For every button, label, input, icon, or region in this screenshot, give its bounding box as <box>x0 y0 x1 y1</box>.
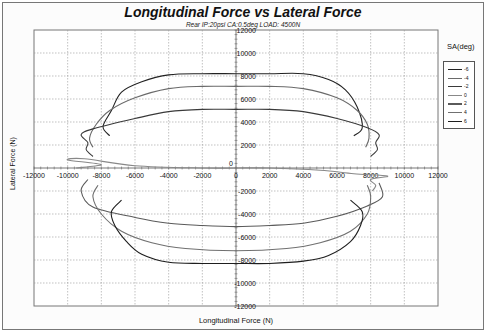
legend-swatch <box>448 69 462 70</box>
x-tick-label: -10000 <box>57 172 79 179</box>
legend-label: -6 <box>464 66 468 72</box>
legend-swatch <box>448 121 462 122</box>
legend-item: 2 <box>448 100 472 108</box>
x-tick-label: 0 <box>234 172 238 179</box>
x-tick-label: 2000 <box>262 172 278 179</box>
legend-swatch <box>448 86 462 87</box>
x-axis-label: Longitudinal Force (N) <box>186 316 286 325</box>
y-tick-label: 0 <box>229 160 233 167</box>
legend-swatch <box>448 95 462 96</box>
x-tick-label: -4000 <box>160 172 178 179</box>
plot-area: -12000-10000-8000-6000-4000-200002000400… <box>0 0 486 336</box>
y-tick-label: -4000 <box>238 211 256 218</box>
legend-label: 2 <box>464 100 467 106</box>
legend-label: 6 <box>464 118 467 124</box>
y-tick-label: 10000 <box>237 50 257 57</box>
legend-label: 4 <box>464 109 467 115</box>
legend-swatch <box>448 112 462 113</box>
y-tick-label: 12000 <box>237 27 257 34</box>
x-tick-label: -6000 <box>126 172 144 179</box>
legend-item: 6 <box>448 118 472 126</box>
y-tick-label: -10000 <box>234 280 256 287</box>
y-tick-label: -6000 <box>238 234 256 241</box>
y-tick-label: 2000 <box>240 142 256 149</box>
y-tick-label: -8000 <box>238 257 256 264</box>
y-tick-label: 4000 <box>240 119 256 126</box>
x-tick-label: -12000 <box>23 172 45 179</box>
y-tick-label: -12000 <box>234 303 256 310</box>
legend-item: 0 <box>448 92 472 100</box>
x-tick-label: -2000 <box>193 172 211 179</box>
legend-item: -2 <box>448 83 472 91</box>
legend-item: -6 <box>448 66 472 74</box>
legend-label: -2 <box>464 83 468 89</box>
legend-label: -4 <box>464 75 468 81</box>
y-tick-label: 6000 <box>240 96 256 103</box>
legend-title: SA(deg) <box>447 42 475 51</box>
x-tick-label: 4000 <box>296 172 312 179</box>
legend-item: 4 <box>448 109 472 117</box>
legend-swatch <box>448 103 462 104</box>
legend: -6-4-20246 <box>443 61 475 129</box>
x-tick-label: 12000 <box>428 172 448 179</box>
y-axis-label: Lateral Force (N) <box>9 124 16 204</box>
y-tick-label: -2000 <box>238 188 256 195</box>
legend-label: 0 <box>464 92 467 98</box>
legend-item: -4 <box>448 75 472 83</box>
legend-swatch <box>448 78 462 79</box>
x-tick-label: -8000 <box>92 172 110 179</box>
x-tick-label: 10000 <box>395 172 415 179</box>
